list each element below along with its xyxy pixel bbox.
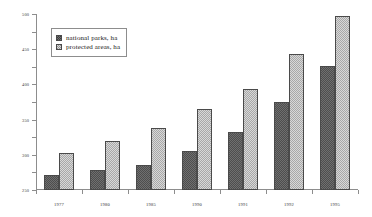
y-axis-tick: 350 [32, 67, 36, 68]
x-axis-tick [266, 190, 267, 194]
x-axis-tick-label: 1985 [146, 202, 156, 207]
y-axis-tick-label: 500 [22, 12, 29, 17]
bar [228, 132, 243, 190]
bar [105, 141, 120, 190]
bar [59, 153, 74, 190]
x-axis-tick [220, 190, 221, 194]
x-axis-tick [82, 190, 83, 194]
y-axis-tick-label: 350 [22, 117, 29, 122]
x-axis-tick [358, 190, 359, 194]
chart-legend: national parks, ha protected areas, ha [51, 28, 127, 57]
y-axis-tick: 400 [32, 49, 36, 50]
legend-item-protected-areas: protected areas, ha [56, 43, 120, 51]
x-axis-tick-label: 1980 [100, 202, 110, 207]
bar-chart: 050100150200250300350400450500 197719801… [0, 0, 372, 217]
x-axis-tick-label: 1990 [192, 202, 202, 207]
bar [151, 128, 166, 190]
y-axis-tick: 200 [32, 120, 36, 121]
y-axis-tick: 250 [32, 102, 36, 103]
legend-label-protected-areas: protected areas, ha [66, 43, 120, 51]
y-axis-tick: 50 [32, 172, 36, 173]
x-axis-tick-label: 1977 [54, 202, 64, 207]
bar [274, 102, 289, 190]
bar [320, 66, 335, 190]
y-axis-tick-label: 250 [22, 188, 29, 193]
y-axis-tick: 150 [32, 137, 36, 138]
x-axis-tick [36, 190, 37, 194]
y-axis-tick: 500 [32, 14, 36, 15]
y-axis-line [36, 14, 37, 190]
y-axis-tick: 100 [32, 155, 36, 156]
y-axis-tick-label: 400 [22, 82, 29, 87]
legend-swatch-icon-protected-areas [56, 44, 62, 50]
x-axis-tick-label: 1992 [284, 202, 294, 207]
bar [90, 170, 105, 190]
bar [44, 175, 59, 190]
x-axis-tick-label: 1991 [238, 202, 248, 207]
bar [289, 54, 304, 190]
bar [197, 109, 212, 190]
legend-item-national-parks: national parks, ha [56, 34, 120, 42]
bar [136, 165, 151, 190]
bar [243, 89, 258, 190]
y-axis-tick: 450 [32, 32, 36, 33]
y-axis-tick-label: 450 [22, 47, 29, 52]
bar [182, 151, 197, 190]
x-axis-tick [128, 190, 129, 194]
x-axis-tick-label: 1995 [330, 202, 340, 207]
x-axis-tick [312, 190, 313, 194]
y-axis-tick-label: 300 [22, 152, 29, 157]
legend-swatch-icon-national-parks [56, 35, 62, 41]
x-axis-tick [174, 190, 175, 194]
y-axis-tick: 300 [32, 84, 36, 85]
bar [335, 16, 350, 190]
legend-label-national-parks: national parks, ha [66, 34, 117, 42]
